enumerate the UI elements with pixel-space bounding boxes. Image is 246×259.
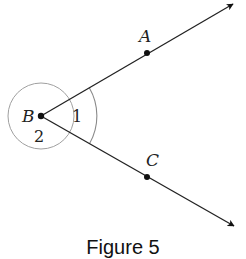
label-A: A [137, 26, 151, 46]
angle-1-arc [89, 88, 97, 144]
ray-BC [41, 116, 234, 226]
label-B: B [21, 106, 35, 126]
point-A [144, 50, 150, 56]
figure-caption: Figure 5 [0, 236, 246, 259]
vertex-point-B [38, 113, 44, 119]
point-C [144, 174, 150, 180]
label-C: C [146, 150, 159, 170]
angle-1-label: 1 [72, 107, 82, 126]
angle-2-label: 2 [34, 127, 44, 146]
ray-BA [41, 4, 233, 116]
